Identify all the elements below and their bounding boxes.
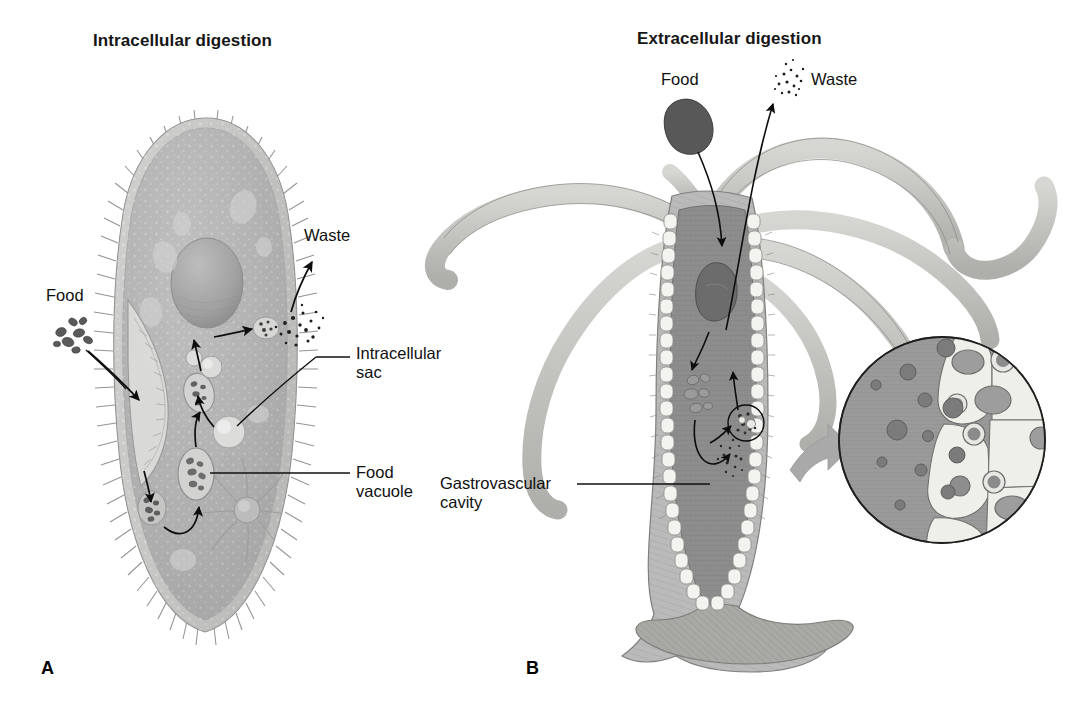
food-chunk-hydra [664,99,713,154]
paramecium-illustration [53,110,350,645]
intracellular-sac [213,416,245,448]
food-vacuole [178,448,214,500]
label-waste-hydra: Waste [811,70,857,89]
label-gastrovascular-cavity-line1: Gastrovascular [440,474,551,492]
label-food-vacuole-line1: Food [356,463,394,481]
hydra-tentacles-left [435,194,690,510]
macronucleus [171,238,243,328]
inset-detail-circle [839,330,1054,566]
label-intracellular-sac-line1: Intracellular [356,344,441,362]
label-food-vacuole: Food vacuole [356,463,413,501]
label-gastrovascular-cavity-line2: cavity [440,493,482,511]
illustration-layer [0,0,1079,704]
panel-letter-b: B [526,658,539,679]
label-intracellular-sac: Intracellular sac [356,344,441,382]
figure-canvas: Intracellular digestion Extracellular di… [0,0,1079,704]
anal-pore-vesicle [253,317,279,339]
inset-lining-cells [927,330,1046,566]
food-bolus-in-cavity [696,263,737,321]
new-food-vacuole [138,491,166,525]
label-waste-paramecium: Waste [304,226,350,245]
label-intracellular-sac-line2: sac [356,363,382,381]
label-gastrovascular-cavity: Gastrovascular cavity [440,474,551,512]
panel-letter-a: A [41,658,54,679]
food-particles-paramecium [53,316,93,354]
label-food-paramecium: Food [46,286,84,305]
hydra-illustration [435,59,1054,672]
label-food-hydra: Food [661,70,699,89]
label-food-vacuole-line2: vacuole [356,482,413,500]
waste-particles-hydra [774,59,804,96]
